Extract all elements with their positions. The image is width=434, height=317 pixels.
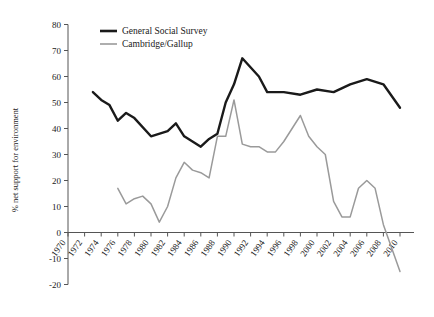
x-tick-label: 2002 [315,238,334,258]
chart-legend: General Social SurveyCambridge/Gallup [100,26,208,49]
x-tick-label: 1980 [132,238,151,259]
y-tick-label: 80 [52,20,62,30]
chart-canvas: -20-1001020304050607080 1970197219741976… [0,0,434,317]
y-tick-label: 0 [57,228,62,238]
x-tick-label: 1982 [149,238,168,258]
y-tick-label: 10 [52,202,62,212]
y-tick-label: 40 [52,124,62,134]
y-tick-label: 50 [52,98,62,108]
x-tick-label: 1986 [182,238,201,259]
x-tick-label: 1974 [82,238,101,259]
legend-label-2: Cambridge/Gallup [122,39,193,49]
y-tick-label: -20 [49,280,61,290]
data-series-group [93,58,400,271]
x-tick-label: 1970 [49,238,68,259]
x-tick-label: 1988 [199,238,218,259]
x-tick-label: 1992 [232,238,251,258]
x-tick-label: 2010 [381,238,400,259]
x-tick-label: 2008 [365,238,384,259]
y-tick-label: 70 [52,46,62,56]
x-tick-label: 1994 [248,238,267,259]
x-tick-label: 2000 [298,238,317,259]
y-tick-label: 20 [52,176,62,186]
chart-figure: -20-1001020304050607080 1970197219741976… [0,0,434,317]
x-tick-label: 1990 [215,238,234,259]
x-tick-label: 1998 [282,238,301,259]
series-line-general-social-survey [93,58,400,146]
x-tick-label: 1984 [165,238,184,259]
legend-label-1: General Social Survey [122,26,208,36]
x-tick-label: 1976 [99,238,118,259]
y-tick-label: 30 [52,150,62,160]
x-tick-label: 1978 [116,238,135,259]
y-tick-label: 60 [52,72,62,82]
x-tick-label: 2006 [348,238,367,259]
y-axis-title: % net support for environment [10,107,20,212]
x-tick-label: 1996 [265,238,284,259]
x-axis: 1970197219741976197819801982198419861988… [49,233,414,259]
x-tick-label: 2004 [331,238,350,259]
